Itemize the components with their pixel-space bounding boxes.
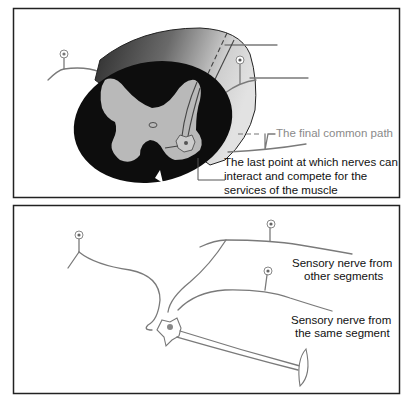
label-same-segment-line-2: the same segment xyxy=(295,327,390,339)
label-same-segment-line-1: Sensory nerve from xyxy=(291,314,391,326)
label-other-segments-line-2: other segments xyxy=(304,270,384,282)
label-last-point-line-3: services of the muscle xyxy=(224,184,338,196)
bottom-panel-frame xyxy=(14,206,400,394)
label-other-segments-line-1: Sensory nerve from xyxy=(292,257,392,269)
label-final-common-path: The final common path xyxy=(276,127,393,139)
label-last-point-line-1: The last point at which nerves can xyxy=(224,156,398,168)
label-last-point-line-2: interact and compete for the xyxy=(224,170,367,182)
diagram-canvas: The final common path The last point at … xyxy=(0,0,412,404)
